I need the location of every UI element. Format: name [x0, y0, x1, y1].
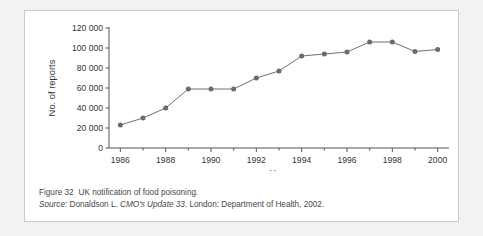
data-point — [277, 69, 282, 74]
data-point — [163, 106, 168, 111]
chart-plot-area: 020 00040 00060 00080 000100 000120 0001… — [25, 11, 460, 171]
y-tick-label: 60 000 — [77, 83, 104, 93]
data-point — [141, 116, 146, 121]
y-tick-label: 80 000 — [77, 63, 104, 73]
y-tick-label: 40 000 — [77, 103, 104, 113]
data-point — [390, 40, 395, 45]
caption-source-label: Source: — [39, 200, 67, 209]
figure-container: 020 00040 00060 00080 000100 000120 0001… — [0, 0, 483, 236]
x-tick-label: 1988 — [156, 155, 175, 165]
data-point — [231, 87, 236, 92]
y-tick-label: 20 000 — [77, 123, 104, 133]
y-axis-title: No. of reports — [46, 59, 57, 116]
caption-source-publication: CMO's Update 33 — [120, 200, 185, 209]
x-tick-label: 1994 — [292, 155, 311, 165]
y-tick-label: 0 — [98, 143, 103, 153]
caption-line-title: Figure 32UK notification of food poisoni… — [39, 187, 443, 199]
x-tick-label: 1998 — [383, 155, 402, 165]
data-point — [186, 87, 191, 92]
data-point — [118, 123, 123, 128]
x-tick-label: 1990 — [201, 155, 220, 165]
data-point — [254, 76, 259, 81]
caption-source-author: Donaldson L. — [70, 200, 118, 209]
y-tick-label: 120 000 — [72, 23, 103, 33]
data-point — [299, 54, 304, 59]
line-chart: 020 00040 00060 00080 000100 000120 0001… — [25, 11, 460, 171]
figure-card: 020 00040 00060 00080 000100 000120 0001… — [24, 10, 459, 222]
caption-figure-title: UK notification of food poisoning. — [79, 188, 199, 197]
data-point — [367, 40, 372, 45]
x-tick-label: 2000 — [428, 155, 447, 165]
caption-figure-number: Figure 32 — [39, 188, 74, 197]
x-tick-label: 1986 — [111, 155, 130, 165]
data-point — [345, 50, 350, 55]
data-point — [209, 87, 214, 92]
data-line — [120, 42, 437, 125]
y-tick-label: 100 000 — [72, 43, 103, 53]
data-point — [435, 47, 440, 52]
caption-line-source: Source: Donaldson L. CMO's Update 33. Lo… — [39, 199, 443, 211]
caption-source-rest: . London: Department of Health, 2002. — [185, 200, 324, 209]
data-point — [413, 49, 418, 54]
data-point — [322, 52, 327, 57]
x-axis-title: Year — [270, 167, 289, 171]
figure-caption: Figure 32UK notification of food poisoni… — [39, 187, 443, 210]
x-tick-label: 1992 — [247, 155, 266, 165]
x-tick-label: 1996 — [337, 155, 356, 165]
